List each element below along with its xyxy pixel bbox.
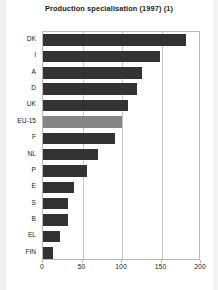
x-tick-100: [121, 260, 122, 263]
y-tick-label-s: S: [32, 195, 36, 211]
y-tick-label-uk: UK: [27, 96, 36, 112]
y-tick-label-p: P: [32, 162, 36, 178]
bar-row: [43, 163, 201, 179]
bar-b[interactable]: [43, 214, 68, 226]
bar-row: [43, 147, 201, 163]
bar-s[interactable]: [43, 198, 68, 210]
y-tick-label-f: F: [32, 129, 36, 145]
bar-row: [43, 228, 201, 244]
bars-layer: [43, 32, 199, 259]
y-axis-labels: DKIADUKEU-15FNLPESBELFIN: [0, 31, 39, 260]
bar-i[interactable]: [43, 51, 160, 63]
plot-area: [42, 31, 200, 260]
y-tick-label-a: A: [32, 64, 36, 80]
y-tick-label-dk: DK: [27, 31, 36, 47]
x-tick-label-200: 200: [194, 263, 205, 270]
x-tick-label-0: 0: [40, 263, 44, 270]
bar-row: [43, 81, 201, 97]
bar-row: [43, 97, 201, 113]
y-tick-label-e: E: [32, 178, 36, 194]
y-tick-label-b: B: [32, 211, 36, 227]
bar-p[interactable]: [43, 165, 87, 177]
page-edge-right: [213, 0, 218, 290]
bar-row: [43, 114, 201, 130]
bar-row: [43, 212, 201, 228]
y-tick-label-i: I: [34, 47, 36, 63]
y-tick-label-eu-15: EU-15: [17, 113, 36, 129]
y-tick-label-fin: FIN: [25, 244, 36, 260]
bar-nl[interactable]: [43, 149, 98, 161]
bar-eu-15[interactable]: [43, 116, 122, 128]
y-tick-label-el: EL: [28, 227, 36, 243]
bar-row: [43, 65, 201, 81]
chart-title: Production specialisation (1997) (1): [0, 4, 218, 13]
bar-a[interactable]: [43, 67, 142, 79]
x-tick-200: [200, 260, 201, 263]
x-tick-0: [42, 260, 43, 263]
y-tick-label-nl: NL: [28, 146, 36, 162]
bar-uk[interactable]: [43, 100, 128, 112]
x-tick-label-150: 150: [155, 263, 166, 270]
bar-row: [43, 130, 201, 146]
bar-row: [43, 196, 201, 212]
bar-f[interactable]: [43, 133, 115, 145]
x-axis-labels: 050100150200: [0, 263, 218, 277]
bar-d[interactable]: [43, 83, 137, 95]
x-tick-50: [82, 260, 83, 263]
bar-fin[interactable]: [43, 247, 53, 259]
bar-row: [43, 32, 201, 48]
bar-e[interactable]: [43, 182, 74, 194]
x-tick-150: [161, 260, 162, 263]
y-tick-label-d: D: [31, 80, 36, 96]
bar-el[interactable]: [43, 231, 60, 243]
x-tick-label-100: 100: [115, 263, 126, 270]
bar-row: [43, 48, 201, 64]
bar-dk[interactable]: [43, 34, 186, 46]
bar-row: [43, 179, 201, 195]
bar-row: [43, 245, 201, 261]
x-tick-label-50: 50: [78, 263, 86, 270]
